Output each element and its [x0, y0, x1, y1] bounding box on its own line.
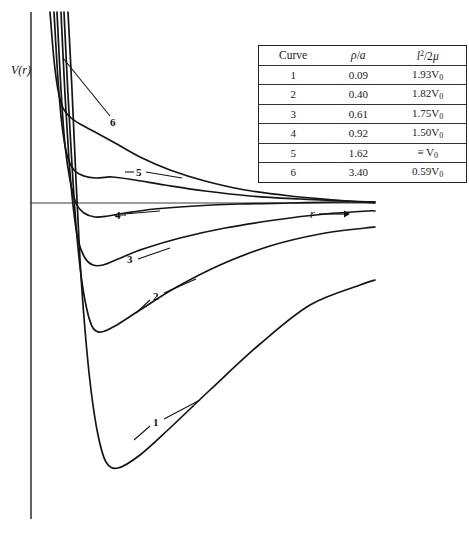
x-axis-arrow-icon: [319, 211, 350, 218]
cell-l-squared-over-2mu: 1.50V0: [389, 124, 466, 144]
figure-container: 6 5 4 3 2 1 V(r) r Curve ρ/a l2/2μ 10.09…: [0, 0, 469, 538]
table-row: 20.401.82V0: [259, 85, 466, 105]
cell-l-squared-over-2mu: 1.82V0: [389, 85, 466, 105]
header-rho-over-a: ρ/a: [327, 46, 389, 65]
x-axis-label: r: [310, 207, 315, 221]
table-row: 51.62≡ V0: [259, 143, 466, 163]
cell-rho-over-a: 0.92: [327, 124, 389, 144]
table-row: 40.921.50V0: [259, 124, 466, 144]
leader-line-2a: [136, 300, 150, 313]
curve-label-1: 1: [153, 416, 159, 428]
cell-rho-over-a: 0.61: [327, 104, 389, 124]
parameter-table: Curve ρ/a l2/2μ 10.091.93V020.401.82V030…: [259, 46, 466, 182]
curve-label-6: 6: [110, 116, 116, 128]
curve-parameter-table: Curve ρ/a l2/2μ 10.091.93V020.401.82V030…: [258, 45, 467, 183]
leader-line-6: [63, 58, 110, 116]
cell-curve: 4: [259, 124, 327, 144]
cell-curve: 3: [259, 104, 327, 124]
cell-rho-over-a: 3.40: [327, 163, 389, 182]
header-curve: Curve: [259, 46, 327, 65]
leader-line-1a: [134, 426, 150, 440]
curve-label-4: 4: [115, 209, 121, 221]
cell-rho-over-a: 0.09: [327, 65, 389, 85]
cell-l-squared-over-2mu: 0.59V0: [389, 163, 466, 182]
cell-curve: 1: [259, 65, 327, 85]
cell-l-squared-over-2mu: ≡ V0: [389, 143, 466, 163]
table-head: Curve ρ/a l2/2μ: [259, 46, 466, 65]
y-axis-label: V(r): [11, 63, 31, 77]
leader-line-2b: [164, 279, 196, 293]
header-l-squared-over-2mu: l2/2μ: [389, 46, 466, 65]
cell-l-squared-over-2mu: 1.75V0: [389, 104, 466, 124]
cell-l-squared-over-2mu: 1.93V0: [389, 65, 466, 85]
curve-label-3: 3: [127, 253, 133, 265]
table-row: 30.611.75V0: [259, 104, 466, 124]
table-row: 10.091.93V0: [259, 65, 466, 85]
table-row: 63.400.59V0: [259, 163, 466, 182]
cell-rho-over-a: 0.40: [327, 85, 389, 105]
table-body: 10.091.93V020.401.82V030.611.75V040.921.…: [259, 65, 466, 182]
table-header-row: Curve ρ/a l2/2μ: [259, 46, 466, 65]
curve-label-5: 5: [136, 166, 142, 178]
cell-curve: 6: [259, 163, 327, 182]
cell-rho-over-a: 1.62: [327, 143, 389, 163]
curve-label-2: 2: [153, 290, 159, 302]
cell-curve: 5: [259, 143, 327, 163]
cell-curve: 2: [259, 85, 327, 105]
